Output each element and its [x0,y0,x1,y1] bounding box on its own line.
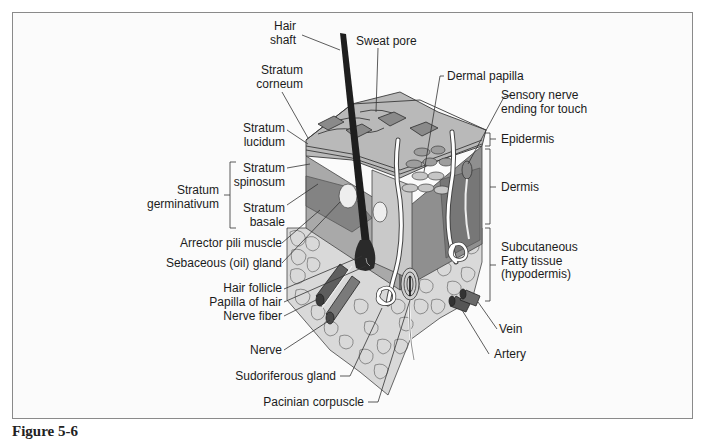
label-hair-follicle: Hair follicle [223,282,282,296]
label-arrector-pili-muscle: Arrector pili muscle [180,237,282,251]
label-stratum-germinativum: Stratum germinativum [147,184,219,211]
label-sensory-nerve-ending: Sensory nerve ending for touch [501,89,587,116]
label-sudoriferous-gland: Sudoriferous gland [235,370,336,384]
label-stratum-lucidum: Stratum lucidum [243,122,285,149]
label-papilla-of-hair: Papilla of hair [209,296,282,310]
figure-caption: Figure 5-6 [12,424,78,439]
label-stratum-basale: Stratum basale [243,202,285,229]
label-sweat-pore: Sweat pore [356,35,417,49]
label-dermis: Dermis [501,181,539,195]
label-vein: Vein [499,323,522,337]
label-epidermis: Epidermis [501,133,554,147]
label-artery: Artery [494,348,526,362]
label-stratum-spinosum: Stratum spinosum [234,162,285,189]
label-stratum-corneum: Stratum corneum [256,64,303,91]
label-nerve-fiber: Nerve fiber [223,310,282,324]
label-dermal-papilla: Dermal papilla [447,70,524,84]
label-nerve: Nerve [250,344,282,358]
label-hair-shaft: Hair shaft [270,20,296,47]
label-pacinian-corpuscle: Pacinian corpuscle [263,396,364,410]
label-sebaceous-gland: Sebaceous (oil) gland [166,257,282,271]
label-subcutaneous-fatty-tissue: Subcutaneous Fatty tissue (hypodermis) [501,241,578,282]
